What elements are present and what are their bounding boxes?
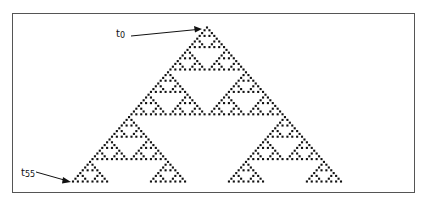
cell	[213, 113, 215, 115]
cell	[99, 172, 101, 174]
cell	[223, 102, 225, 104]
cell	[104, 144, 106, 146]
cell	[174, 80, 176, 82]
cell	[186, 94, 188, 96]
cell	[138, 127, 140, 129]
cell	[79, 172, 81, 174]
cell	[238, 113, 240, 115]
cell	[145, 147, 147, 149]
cell	[213, 68, 215, 70]
cell	[194, 57, 196, 59]
cell	[252, 180, 254, 182]
cell	[289, 133, 291, 135]
cell	[301, 141, 303, 143]
cell	[77, 180, 79, 182]
cell	[116, 147, 118, 149]
cell	[269, 133, 271, 135]
cell	[113, 155, 115, 157]
cell	[243, 68, 245, 70]
cell	[172, 66, 174, 68]
cell	[96, 152, 98, 154]
cell	[165, 164, 167, 166]
cell	[240, 88, 242, 90]
cell	[281, 119, 283, 121]
cell	[169, 74, 171, 76]
cell	[140, 108, 142, 110]
cell	[169, 80, 171, 82]
cell	[296, 130, 298, 132]
cell	[243, 164, 245, 166]
cell	[179, 180, 181, 182]
cell	[230, 88, 232, 90]
cell	[160, 158, 162, 160]
cell	[274, 127, 276, 129]
cell	[143, 155, 145, 157]
cell	[145, 141, 147, 143]
cell	[152, 155, 154, 157]
cell	[140, 130, 142, 132]
cell	[230, 99, 232, 101]
cell	[194, 63, 196, 65]
cell	[174, 85, 176, 87]
cell	[281, 158, 283, 160]
cell	[204, 113, 206, 115]
cell	[145, 96, 147, 98]
cell	[247, 180, 249, 182]
cell	[243, 74, 245, 76]
cell	[320, 158, 322, 160]
cell-grid	[72, 26, 342, 182]
cell	[138, 150, 140, 152]
cell	[199, 108, 201, 110]
cell	[252, 152, 254, 154]
cell	[208, 113, 210, 115]
cell	[330, 169, 332, 171]
cell	[221, 54, 223, 56]
cell	[189, 46, 191, 48]
cell	[289, 122, 291, 124]
cell	[174, 91, 176, 93]
cell	[250, 166, 252, 168]
cell	[162, 155, 164, 157]
cell	[116, 136, 118, 138]
cell	[155, 175, 157, 177]
cell	[111, 147, 113, 149]
cell	[184, 96, 186, 98]
cell	[252, 169, 254, 171]
cell	[162, 88, 164, 90]
cell	[204, 68, 206, 70]
cell	[269, 155, 271, 157]
cell	[155, 91, 157, 93]
cell	[152, 88, 154, 90]
cell	[169, 68, 171, 70]
cell	[174, 108, 176, 110]
cell	[277, 136, 279, 138]
cell	[182, 99, 184, 101]
cell	[328, 166, 330, 168]
cell	[257, 158, 259, 160]
cell	[262, 96, 264, 98]
cell	[240, 178, 242, 180]
cell	[238, 91, 240, 93]
cell	[286, 119, 288, 121]
cell	[262, 141, 264, 143]
cell	[196, 60, 198, 62]
cell	[145, 102, 147, 104]
cell	[286, 158, 288, 160]
cell	[216, 60, 218, 62]
cell	[233, 113, 235, 115]
cell	[179, 57, 181, 59]
cell	[150, 91, 152, 93]
cell	[140, 158, 142, 160]
cell	[152, 178, 154, 180]
cell	[218, 46, 220, 48]
cell	[250, 178, 252, 180]
cell	[179, 102, 181, 104]
cell	[328, 178, 330, 180]
cell	[157, 172, 159, 174]
cell	[274, 105, 276, 107]
cell	[101, 175, 103, 177]
cell	[223, 96, 225, 98]
cell	[243, 91, 245, 93]
cell	[172, 178, 174, 180]
cell	[330, 175, 332, 177]
